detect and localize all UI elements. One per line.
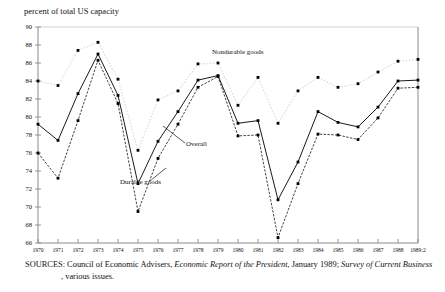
data-point (217, 62, 220, 65)
data-point (357, 138, 360, 141)
annotation-leader-overall (163, 126, 185, 143)
source-prefix: SOURCES: Council of Economic Advisers, (25, 260, 174, 269)
y-tick-label: 90 (25, 23, 32, 30)
x-tick-label: 1985 (332, 247, 343, 253)
x-tick-label: 1978 (192, 247, 203, 253)
data-point (177, 110, 180, 113)
data-point (317, 76, 320, 79)
y-tick-label: 84 (25, 77, 32, 84)
data-point (237, 135, 240, 138)
data-point (197, 63, 200, 66)
data-point (417, 86, 420, 89)
chart-figure: percent of total US capacity 66687072747… (0, 0, 445, 292)
source-suffix: , various issues. (25, 271, 437, 283)
data-point (237, 122, 240, 125)
source-note: SOURCES: Council of Economic Advisers, E… (25, 259, 437, 282)
series-line-durable-goods (38, 60, 418, 237)
data-point (237, 104, 240, 107)
data-point (197, 79, 200, 82)
data-point (97, 59, 100, 62)
y-tick-label: 78 (25, 131, 32, 138)
x-tick-label: 1975 (132, 247, 143, 253)
x-tick-label: 1981 (252, 247, 263, 253)
data-point (57, 139, 60, 142)
x-tick-label: 1979 (212, 247, 223, 253)
data-point (417, 79, 420, 82)
y-tick-label: 68 (25, 221, 32, 228)
source-italic-1: Economic Report of the President (174, 260, 287, 269)
plot-area: 6668707274767880828486889019701971197219… (0, 0, 445, 258)
data-point (257, 134, 260, 137)
data-point (37, 152, 40, 155)
data-point (317, 133, 320, 136)
data-point (157, 99, 160, 102)
data-point (377, 71, 380, 74)
x-tick-label: 1986 (352, 247, 363, 253)
y-tick-label: 86 (25, 59, 32, 66)
data-point (297, 90, 300, 93)
data-point (357, 126, 360, 129)
data-point (137, 210, 140, 213)
data-point (377, 106, 380, 109)
x-tick-label: 1970 (32, 247, 43, 253)
data-point (157, 157, 160, 160)
x-tick-label: 1988 (392, 247, 403, 253)
data-point (217, 75, 220, 78)
y-tick-label: 74 (25, 167, 32, 174)
capacity-utilization-line-chart: 6668707274767880828486889019701971197219… (0, 0, 445, 258)
data-point (37, 80, 40, 83)
data-point (97, 53, 100, 56)
x-tick-label: 1971 (52, 247, 63, 253)
data-point (177, 123, 180, 126)
x-tick-label: 1982 (272, 247, 283, 253)
data-point (157, 140, 160, 143)
source-mid: , January 1989; (288, 260, 342, 269)
data-point (197, 86, 200, 89)
data-point (77, 49, 80, 52)
series-line-nondurable-goods (38, 42, 418, 150)
data-point (97, 41, 100, 44)
x-tick-label: 1976 (152, 247, 163, 253)
data-point (417, 58, 420, 61)
data-point (117, 78, 120, 81)
y-tick-label: 76 (25, 149, 32, 156)
x-tick-label: 1983 (292, 247, 303, 253)
y-tick-label: 72 (25, 185, 32, 192)
data-point (277, 198, 280, 201)
data-point (297, 161, 300, 164)
data-point (377, 117, 380, 120)
data-point (397, 60, 400, 63)
x-tick-label: 1980 (232, 247, 243, 253)
data-point (57, 177, 60, 180)
data-point (77, 119, 80, 122)
y-tick-label: 88 (25, 41, 32, 48)
data-point (337, 121, 340, 124)
data-point (337, 86, 340, 89)
y-tick-label: 80 (25, 113, 32, 120)
data-point (277, 122, 280, 125)
data-point (57, 84, 60, 87)
annotation-nondurable-goods: Nondurable goods (212, 48, 264, 56)
data-point (337, 134, 340, 137)
data-point (117, 102, 120, 105)
data-point (37, 123, 40, 126)
data-point (177, 90, 180, 93)
y-tick-label: 82 (25, 95, 32, 102)
data-point (277, 236, 280, 239)
x-tick-label: 1973 (92, 247, 103, 253)
data-point (117, 94, 120, 97)
x-tick-label: 1974 (112, 247, 123, 253)
annotation-overall: Overall (186, 140, 207, 148)
x-tick-label: 1987 (372, 247, 383, 253)
data-point (257, 76, 260, 79)
data-point (257, 119, 260, 122)
y-tick-label: 70 (25, 203, 32, 210)
annotation-durable-goods: Durable goods (120, 178, 161, 186)
y-tick-label: 66 (25, 239, 32, 246)
data-point (357, 82, 360, 85)
data-point (297, 182, 300, 185)
x-tick-label: 1972 (72, 247, 83, 253)
data-point (397, 80, 400, 83)
x-tick-label: 1977 (172, 247, 183, 253)
x-tick-label: 1989:2 (410, 247, 426, 253)
